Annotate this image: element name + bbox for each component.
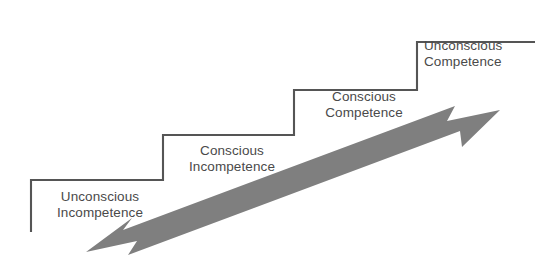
step-label-unconscious-incompetence: Unconscious Incompetence bbox=[34, 189, 166, 221]
step-label-line-2: Incompetence bbox=[34, 205, 166, 221]
competence-staircase-diagram: Unconscious Incompetence Conscious Incom… bbox=[0, 0, 544, 265]
step-label-line-1: Unconscious bbox=[424, 38, 544, 54]
step-label-line-1: Unconscious bbox=[34, 189, 166, 205]
step-label-line-1: Conscious bbox=[298, 89, 430, 105]
step-label-line-2: Competence bbox=[424, 54, 544, 70]
step-label-conscious-competence: Conscious Competence bbox=[298, 89, 430, 121]
step-label-line-2: Competence bbox=[298, 105, 430, 121]
step-label-line-2: Incompetence bbox=[166, 159, 298, 175]
step-label-unconscious-competence: Unconscious Competence bbox=[424, 38, 544, 70]
step-label-conscious-incompetence: Conscious Incompetence bbox=[166, 143, 298, 175]
step-label-line-1: Conscious bbox=[166, 143, 298, 159]
